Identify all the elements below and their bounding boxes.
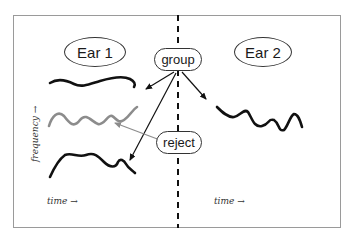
ear2-curve — [217, 107, 302, 130]
ear1-label: Ear 1 — [64, 37, 126, 67]
ear2-label: Ear 2 — [234, 37, 292, 67]
frequency-axis-label: frequency → — [30, 106, 40, 162]
group-arrow-to-ear1-top — [146, 72, 174, 89]
ear1-rejected-curve — [49, 107, 137, 126]
ear1-top-curve — [50, 77, 135, 87]
reject-arrow — [115, 123, 160, 140]
time-axis-label-left: time → — [47, 196, 78, 206]
group-label: group — [154, 48, 202, 71]
reject-label: reject — [156, 131, 202, 154]
group-arrow-to-ear2 — [182, 72, 206, 99]
time-axis-label-right: time → — [214, 196, 245, 206]
ear1-bottom-curve — [50, 154, 135, 177]
